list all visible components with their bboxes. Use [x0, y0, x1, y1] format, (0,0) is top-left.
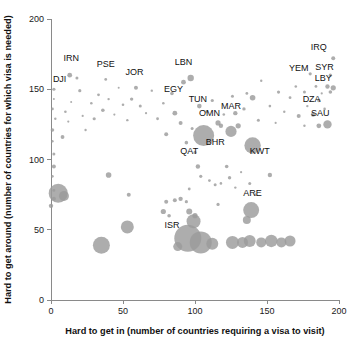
point-label-bhr: BHR [206, 137, 226, 147]
bubble-point [231, 95, 234, 98]
bubble-point [126, 119, 128, 121]
bubble-point [106, 172, 112, 178]
bubble-point [196, 164, 200, 168]
point-label-irq: IRQ [311, 42, 327, 52]
y-axis-title: Hard to get around (number of countries … [3, 15, 13, 303]
bubble-lby [325, 84, 329, 88]
y-tick-label: 0 [39, 295, 44, 305]
bubble-lbn [187, 75, 193, 81]
bubble-point [185, 200, 188, 203]
scatter-plot-canvas: 050100150200050100150200 DJIIRNPSEJORLBN… [0, 0, 353, 344]
bubble-point [188, 188, 191, 191]
bubble-point [276, 237, 286, 247]
bubble-point [289, 96, 292, 99]
bubble-point [250, 95, 256, 101]
bubble-point [191, 127, 194, 130]
bubble-point [303, 125, 305, 127]
x-tick-label: 100 [187, 306, 202, 316]
bubble-point [130, 97, 133, 100]
bubble-point [151, 89, 153, 91]
bubble-point [52, 152, 55, 155]
y-tick-label: 100 [29, 155, 44, 165]
bubble-point [121, 220, 134, 233]
bubble-point [240, 171, 242, 173]
bubble-point [277, 90, 280, 93]
bubble-point [70, 101, 72, 103]
bubble-point [90, 102, 93, 105]
bubble-point [211, 99, 214, 102]
bubble-chart-figure: 050100150200050100150200 DJIIRNPSEJORLBN… [0, 0, 353, 344]
bubble-point [52, 197, 56, 201]
bubble-point [245, 92, 248, 95]
x-tick-label: 0 [48, 306, 53, 316]
bubble-point [107, 98, 109, 100]
y-tick-label: 200 [29, 14, 44, 24]
bubble-point [67, 120, 69, 122]
bubble-point [220, 182, 223, 185]
bubble-point [162, 102, 165, 105]
point-label-lby: LBY [315, 73, 332, 83]
point-label-qat: QAT [180, 146, 198, 156]
bubble-point [186, 208, 192, 214]
point-label-irn: IRN [63, 53, 79, 63]
x-tick-label: 200 [331, 306, 346, 316]
point-label-yem: YEM [289, 63, 309, 73]
bubble-point [228, 176, 231, 179]
bubble-point [51, 175, 54, 178]
bubble-point [172, 111, 177, 116]
point-label-mar: MAR [221, 101, 242, 111]
bubble-mar [233, 111, 237, 115]
bubble-point [49, 204, 53, 208]
bubble-point [269, 105, 272, 108]
bubble-point [216, 203, 219, 206]
bubble-point [59, 191, 69, 201]
bubble-point [167, 214, 171, 218]
bubble-point [242, 107, 245, 110]
bubble-point [113, 113, 115, 115]
bubble-point [78, 89, 81, 92]
x-tick-label: 150 [259, 306, 274, 316]
bubble-point [237, 237, 248, 248]
bubble-point [84, 129, 86, 131]
bubble-point [51, 128, 55, 132]
bubble-point [283, 111, 285, 113]
bubble-point [161, 209, 166, 214]
x-axis-title: Hard to get in (number of countries requ… [65, 326, 324, 336]
bubble-point [257, 119, 260, 122]
point-label-isr: ISR [164, 220, 180, 230]
bubble-point [256, 237, 266, 247]
bubble-point [315, 85, 318, 88]
x-tick-label: 50 [118, 306, 128, 316]
bubble-point [192, 213, 197, 218]
point-label-are: ARE [243, 188, 262, 198]
bubble-point [51, 140, 53, 142]
y-tick-label: 50 [34, 225, 44, 235]
bubble-point [306, 105, 308, 107]
bubble-point [236, 123, 241, 128]
bubble-sau [323, 120, 331, 128]
bubble-bhr [225, 126, 236, 137]
bubble-point [75, 77, 78, 80]
bubble-point [82, 115, 84, 117]
bubble-point [321, 92, 323, 94]
bubble-point [208, 179, 211, 182]
bubble-point [295, 85, 298, 88]
bubble-point [206, 238, 218, 250]
point-label-dza: DZA [303, 94, 321, 104]
bubble-point [52, 165, 56, 169]
bubble-point [93, 117, 96, 120]
bubble-point [173, 198, 177, 202]
bubble-point [329, 90, 333, 94]
bubble-point [234, 186, 236, 188]
bubble-point [243, 216, 251, 224]
bubble-point [122, 103, 125, 106]
point-label-kwt: KWT [250, 146, 270, 156]
bubble-point [97, 93, 100, 96]
bubble-point [127, 193, 131, 197]
point-label-omn: OMN [199, 108, 220, 118]
bubble-point [61, 135, 65, 139]
bubble-point [139, 105, 142, 108]
bubble-yem [309, 72, 312, 75]
bubble-point [118, 87, 120, 89]
bubble-pse [104, 78, 107, 81]
